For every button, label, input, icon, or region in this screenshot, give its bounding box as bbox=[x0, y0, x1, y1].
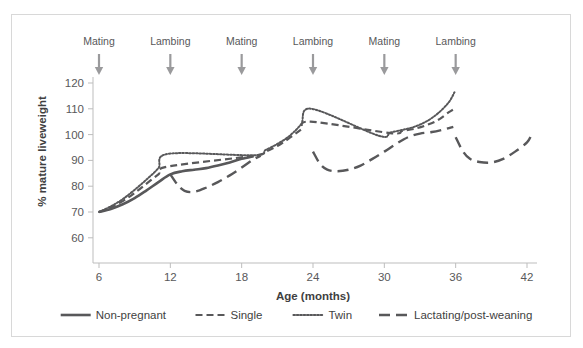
y-tick-label: 120 bbox=[65, 77, 84, 89]
x-tick-label: 42 bbox=[521, 271, 534, 283]
series-line-twin bbox=[99, 92, 454, 212]
annotation-lambing-5: Lambing bbox=[436, 35, 476, 75]
x-axis-title: Age (months) bbox=[276, 290, 350, 302]
legend-item-lactating-post-weaning[interactable]: Lactating/post-weaning bbox=[379, 309, 532, 321]
y-axis-title: % mature liveweight bbox=[36, 96, 48, 207]
annotation-arrow-head bbox=[237, 67, 245, 75]
x-tick-label: 24 bbox=[307, 271, 320, 283]
legend-label: Single bbox=[231, 309, 263, 321]
annotation-arrow-head bbox=[166, 67, 174, 75]
annotation-label: Mating bbox=[83, 35, 115, 47]
annotation-label: Mating bbox=[369, 35, 401, 47]
annotation-arrow-head bbox=[451, 67, 459, 75]
annotation-arrow-head bbox=[309, 67, 317, 75]
y-tick-label: 100 bbox=[65, 129, 84, 141]
legend-label: Non-pregnant bbox=[96, 309, 167, 321]
y-tick-label: 90 bbox=[71, 154, 84, 166]
y-tick-label: 70 bbox=[71, 206, 84, 218]
series-line-lactating-post-weaning bbox=[313, 127, 453, 171]
annotation-label: Mating bbox=[226, 35, 258, 47]
x-tick-label: 36 bbox=[449, 271, 462, 283]
y-tick-label: 60 bbox=[71, 232, 84, 244]
annotation-label: Lambing bbox=[150, 35, 190, 47]
legend-label: Lactating/post-weaning bbox=[414, 309, 532, 321]
series-line-lactating-post-weaning bbox=[456, 134, 532, 163]
x-tick-label: 30 bbox=[378, 271, 391, 283]
legend-item-non-pregnant[interactable]: Non-pregnant bbox=[61, 309, 167, 321]
line-chart: 607080901001101206121824303642Age (month… bbox=[0, 0, 583, 348]
annotation-arrow-head bbox=[95, 67, 103, 75]
annotation-lambing-1: Lambing bbox=[150, 35, 190, 75]
legend-label: Twin bbox=[328, 309, 352, 321]
annotation-mating-2: Mating bbox=[226, 35, 258, 75]
annotation-mating-4: Mating bbox=[369, 35, 401, 75]
series-line-single bbox=[99, 109, 454, 212]
chart-figure: 607080901001101206121824303642Age (month… bbox=[0, 0, 583, 348]
x-tick-label: 18 bbox=[235, 271, 248, 283]
annotation-arrow-head bbox=[380, 67, 388, 75]
annotation-mating-0: Mating bbox=[83, 35, 115, 75]
y-tick-label: 80 bbox=[71, 180, 84, 192]
legend-item-single[interactable]: Single bbox=[196, 309, 263, 321]
annotation-label: Lambing bbox=[293, 35, 333, 47]
legend-item-twin[interactable]: Twin bbox=[293, 309, 352, 321]
x-tick-label: 12 bbox=[164, 271, 177, 283]
annotation-label: Lambing bbox=[436, 35, 476, 47]
annotation-lambing-3: Lambing bbox=[293, 35, 333, 75]
y-tick-label: 110 bbox=[66, 103, 84, 115]
x-tick-label: 6 bbox=[96, 271, 102, 283]
